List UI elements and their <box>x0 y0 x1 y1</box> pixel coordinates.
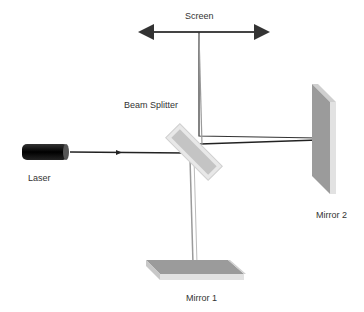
interferometer-diagram <box>0 0 364 312</box>
beam-splitter-label: Beam Splitter <box>124 100 178 110</box>
mirror-1-label: Mirror 1 <box>186 293 217 303</box>
mirror-1 <box>146 260 246 280</box>
mirror-2 <box>312 84 336 194</box>
laser-label: Laser <box>28 173 51 183</box>
mirror-2-label: Mirror 2 <box>316 210 347 220</box>
beam-direction-arrow <box>116 150 122 155</box>
laser <box>22 144 69 160</box>
screen-label: Screen <box>185 11 214 21</box>
